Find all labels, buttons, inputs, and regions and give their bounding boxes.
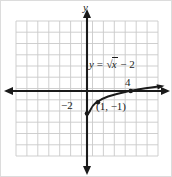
equation-equals: = [97,58,103,70]
x-tick-label-4: 4 [125,77,131,88]
point-y-intercept [85,111,90,116]
y-intercept-label: −2 [61,100,73,111]
equation-label: y = √x − 2 [89,59,135,70]
x-axis-left-arrow [4,87,13,95]
equation-lhs: y [89,58,94,70]
x-axis-right-arrow [161,87,170,95]
equation-minus: − [120,58,126,70]
radical-expression: √x [106,59,118,70]
radical-argument: x [112,57,118,70]
point-coordinate-label: (1, −1) [96,101,126,112]
graph-figure: y y = √x − 2 −2 (1, −1) 4 [0,0,172,177]
coordinate-plane-svg [1,1,172,177]
equation-constant: 2 [129,58,135,70]
point-x-intercept [128,89,133,94]
y-axis-label: y [83,2,88,13]
y-axis-bottom-arrow [83,166,91,175]
